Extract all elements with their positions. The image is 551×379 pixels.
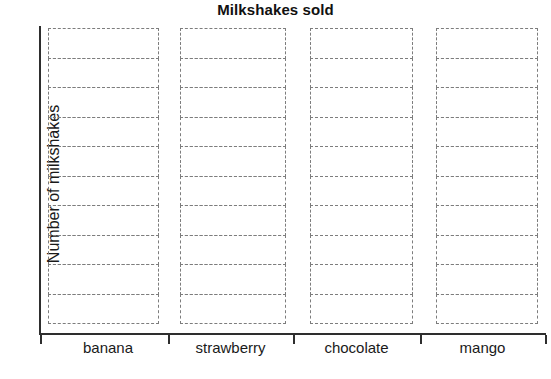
grid-cell[interactable] — [436, 205, 538, 236]
grid-cell[interactable] — [310, 176, 413, 207]
grid-cell[interactable] — [48, 87, 159, 118]
category-label-strawberry: strawberry — [168, 339, 293, 356]
grid-cell[interactable] — [436, 264, 538, 295]
grid-cell[interactable] — [436, 87, 538, 118]
grid-cell[interactable] — [310, 235, 413, 266]
grid-cell[interactable] — [310, 87, 413, 118]
x-axis-tick-4 — [545, 335, 547, 344]
grid-cell[interactable] — [436, 176, 538, 207]
grid-cell[interactable] — [436, 294, 538, 325]
grid-cell[interactable] — [180, 146, 286, 177]
grid-cell[interactable] — [436, 146, 538, 177]
grid-cell[interactable] — [48, 176, 159, 207]
grid-cell[interactable] — [180, 58, 286, 89]
grid-cell[interactable] — [310, 117, 413, 148]
grid-cell[interactable] — [180, 235, 286, 266]
grid-cell[interactable] — [310, 58, 413, 89]
grid-cell[interactable] — [48, 294, 159, 325]
grid-cell[interactable] — [48, 146, 159, 177]
category-label-mango: mango — [420, 339, 545, 356]
bar-column-strawberry[interactable] — [180, 28, 286, 333]
grid-cell[interactable] — [48, 235, 159, 266]
grid-cell[interactable] — [310, 264, 413, 295]
grid-cell[interactable] — [180, 117, 286, 148]
grid-cell[interactable] — [48, 58, 159, 89]
grid-cell[interactable] — [310, 205, 413, 236]
grid-cell[interactable] — [436, 28, 538, 59]
x-axis-tick-0 — [40, 335, 42, 344]
grid-cell[interactable] — [436, 235, 538, 266]
grid-cell[interactable] — [180, 294, 286, 325]
grid-cell[interactable] — [48, 117, 159, 148]
grid-cell[interactable] — [180, 28, 286, 59]
grid-cell[interactable] — [48, 28, 159, 59]
category-label-chocolate: chocolate — [293, 339, 420, 356]
grid-cell[interactable] — [48, 205, 159, 236]
grid-cell[interactable] — [436, 117, 538, 148]
grid-cell[interactable] — [180, 205, 286, 236]
grid-cell[interactable] — [436, 58, 538, 89]
plot-area: bananastrawberrychocolatemango — [0, 0, 551, 379]
grid-cell[interactable] — [180, 176, 286, 207]
category-label-banana: banana — [48, 339, 168, 356]
grid-cell[interactable] — [310, 294, 413, 325]
bar-chart-worksheet: Milkshakes sold Number of milkshakes ban… — [0, 0, 551, 379]
grid-cell[interactable] — [180, 87, 286, 118]
grid-cell[interactable] — [310, 28, 413, 59]
grid-cell[interactable] — [180, 264, 286, 295]
y-axis-line — [39, 26, 41, 335]
grid-cell[interactable] — [48, 264, 159, 295]
grid-cell[interactable] — [310, 146, 413, 177]
bar-column-banana[interactable] — [48, 28, 159, 333]
bar-column-mango[interactable] — [436, 28, 538, 333]
bar-column-chocolate[interactable] — [310, 28, 413, 333]
